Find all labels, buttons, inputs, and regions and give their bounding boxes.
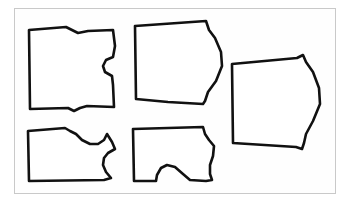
piece-bottom-middle: [133, 127, 214, 181]
piece-right: [232, 55, 320, 149]
piece-bottom-left: [28, 128, 115, 181]
pattern-pieces-group: [28, 21, 320, 181]
screenshot-root: [0, 0, 350, 208]
pattern-pieces-drawing: [0, 0, 350, 208]
piece-top-middle: [135, 21, 222, 104]
piece-top-left: [29, 27, 115, 111]
